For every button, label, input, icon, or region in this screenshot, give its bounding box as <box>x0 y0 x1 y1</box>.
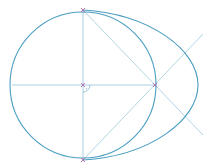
right-angle-dot <box>86 88 87 89</box>
diagram-canvas <box>0 0 220 165</box>
egg-construction-diagram <box>0 0 220 165</box>
